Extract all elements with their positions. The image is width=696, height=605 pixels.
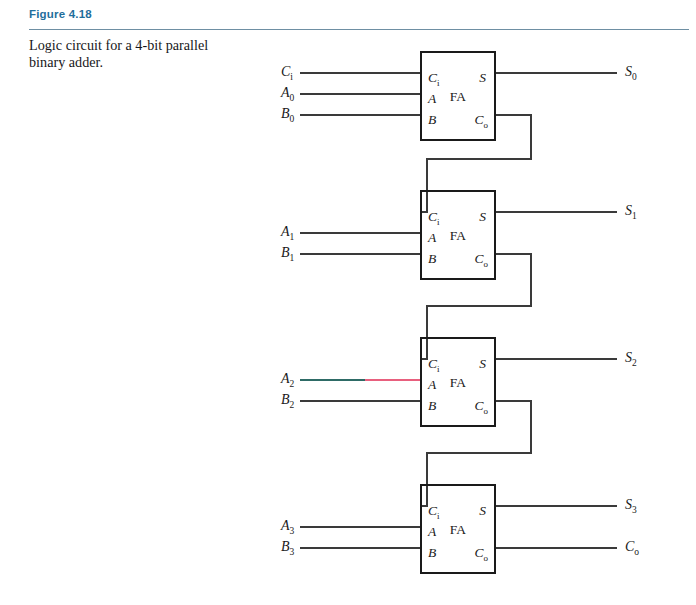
signal-label-a0: A0 [281, 85, 294, 103]
pin-sum: S [479, 70, 486, 86]
pin-carry-in: Ci [428, 209, 440, 227]
full-adder-block-1[interactable]: Ci A B S Co FA [420, 190, 496, 280]
signal-label-b3: B3 [281, 539, 294, 557]
signal-label-s2: S2 [625, 350, 637, 368]
pin-carry-out: Co [474, 251, 488, 269]
pin-input-b: B [428, 545, 436, 561]
pin-input-a: A [428, 230, 436, 246]
signal-label-s1: S1 [625, 203, 637, 221]
signal-label-b2: B2 [281, 392, 294, 410]
signal-label-s0: S0 [625, 64, 637, 82]
block-name-label: FA [450, 228, 466, 244]
signal-label-co: Co [625, 539, 639, 557]
pin-input-b: B [428, 112, 436, 128]
pin-carry-out: Co [474, 545, 488, 563]
pin-input-a: A [428, 377, 436, 393]
pin-input-a: A [428, 524, 436, 540]
pin-carry-out: Co [474, 398, 488, 416]
pin-sum: S [479, 209, 486, 225]
pin-sum: S [479, 356, 486, 372]
signal-label-b0: B0 [281, 106, 294, 124]
signal-label-b1: B1 [281, 245, 294, 263]
figure-page: Figure 4.18 Logic circuit for a 4-bit pa… [0, 0, 696, 605]
block-name-label: FA [450, 89, 466, 105]
pin-carry-in: Ci [428, 503, 440, 521]
block-name-label: FA [450, 522, 466, 538]
pin-carry-in: Ci [428, 70, 440, 88]
signal-label-ci: Ci [281, 64, 293, 82]
full-adder-block-2[interactable]: Ci A B S Co FA [420, 337, 496, 427]
pin-carry-in: Ci [428, 356, 440, 374]
pin-input-b: B [428, 251, 436, 267]
signal-label-s3: S3 [625, 497, 637, 515]
circuit-diagram [0, 0, 696, 605]
signal-label-a2: A2 [281, 371, 294, 389]
pin-input-b: B [428, 398, 436, 414]
full-adder-block-0[interactable]: Ci A B S Co FA [420, 51, 496, 141]
pin-sum: S [479, 503, 486, 519]
pin-carry-out: Co [474, 112, 488, 130]
pin-input-a: A [428, 91, 436, 107]
block-name-label: FA [450, 375, 466, 391]
signal-label-a3: A3 [281, 518, 294, 536]
full-adder-block-3[interactable]: Ci A B S Co FA [420, 484, 496, 574]
signal-label-a1: A1 [281, 224, 294, 242]
